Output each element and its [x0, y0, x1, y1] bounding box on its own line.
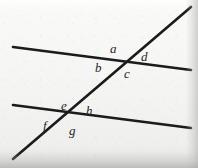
angle-label-f: f	[43, 119, 47, 132]
lower-parallel-line	[13, 105, 191, 128]
lines-diagram	[0, 0, 198, 168]
angle-label-e: e	[61, 99, 67, 112]
angle-label-b: b	[95, 61, 102, 74]
geometry-figure: a d b c e h f g	[0, 0, 198, 168]
angle-label-g: g	[69, 124, 76, 137]
transversal-line	[13, 7, 191, 159]
angle-label-a: a	[110, 42, 117, 55]
angle-label-c: c	[124, 67, 130, 80]
upper-parallel-line	[13, 47, 191, 70]
angle-label-d: d	[141, 50, 148, 63]
angle-label-h: h	[86, 104, 93, 117]
